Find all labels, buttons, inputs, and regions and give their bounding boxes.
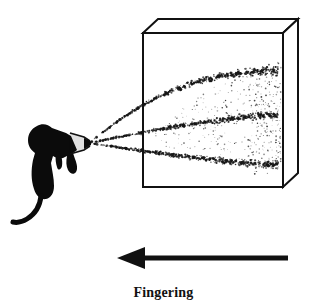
box-front-face xyxy=(143,33,283,187)
box-right-face xyxy=(283,19,298,187)
box-top-face xyxy=(143,19,298,33)
figure-root: Fingering xyxy=(0,0,327,308)
spray-gun-hose-taper xyxy=(12,221,20,222)
arrow-shaft xyxy=(140,256,288,261)
figure-canvas xyxy=(0,0,327,308)
